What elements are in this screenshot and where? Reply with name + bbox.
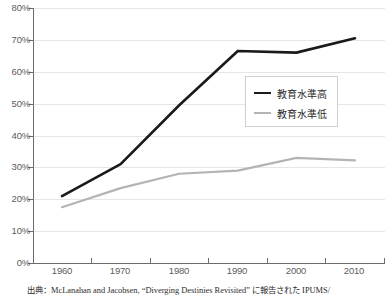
series-line-education-low [62, 158, 355, 207]
legend-label-education-low: 教育水準低 [277, 106, 327, 121]
legend-line-swatch-icon [254, 112, 271, 114]
legend: 教育水準高 教育水準低 [245, 76, 338, 127]
legend-label-education-high: 教育水準高 [277, 86, 327, 101]
series-layer [0, 0, 391, 296]
source-note: 出典：McLanahan and Jacobsen, “Diverging De… [27, 283, 391, 295]
legend-line-swatch-icon [254, 92, 271, 94]
chart-figure: 80% 70% 60% 50% 40% 30% 20% 10% 0% 1960 … [0, 0, 391, 296]
legend-entry-education-high: 教育水準高 [254, 85, 327, 101]
legend-entry-education-low: 教育水準低 [254, 105, 327, 121]
